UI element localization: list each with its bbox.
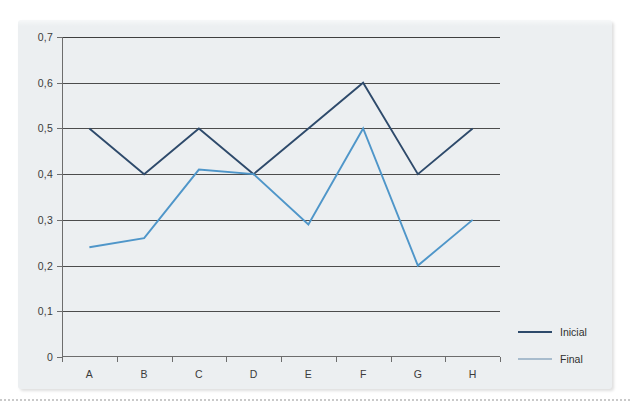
page-root: 00,10,20,30,40,50,60,7 ABCDEFGH InicialF… <box>0 0 630 411</box>
plot-area: 00,10,20,30,40,50,60,7 ABCDEFGH <box>62 37 500 357</box>
x-axis-tick <box>500 357 501 362</box>
legend-swatch-icon <box>518 331 552 333</box>
y-axis-tick-label: 0,5 <box>38 122 53 134</box>
x-axis-tick <box>226 357 227 362</box>
legend-label: Inicial <box>560 326 587 338</box>
x-axis-tick <box>172 357 173 362</box>
x-axis-tick <box>62 357 63 362</box>
x-axis-tick <box>391 357 392 362</box>
chart-card: 00,10,20,30,40,50,60,7 ABCDEFGH InicialF… <box>18 20 612 389</box>
x-axis-tick <box>117 357 118 362</box>
y-axis-tick-label: 0,1 <box>38 305 53 317</box>
legend-item-final[interactable]: Final <box>518 345 614 372</box>
x-axis-tick <box>281 357 282 362</box>
x-axis-tick <box>445 357 446 362</box>
y-axis-tick-label: 0,4 <box>38 168 53 180</box>
series-lines <box>62 37 500 357</box>
series-line-inicial <box>89 83 472 174</box>
legend-item-inicial[interactable]: Inicial <box>518 318 614 345</box>
bottom-dotted-rule <box>0 399 630 401</box>
y-axis-tick-label: 0,6 <box>38 77 53 89</box>
y-axis-tick-label: 0,3 <box>38 214 53 226</box>
y-axis-tick-label: 0,2 <box>38 260 53 272</box>
legend-label: Final <box>560 353 583 365</box>
chart-legend: InicialFinal <box>518 318 614 372</box>
y-axis-tick-label: 0 <box>47 351 53 363</box>
y-axis-tick-label: 0,7 <box>38 31 53 43</box>
legend-swatch-icon <box>518 358 552 360</box>
series-line-final <box>89 128 472 265</box>
x-axis-tick <box>336 357 337 362</box>
